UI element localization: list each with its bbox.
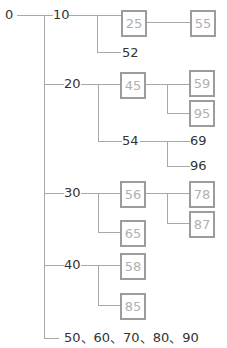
node-65: 65 bbox=[120, 220, 146, 247]
branch-10-line bbox=[69, 15, 121, 16]
branch-20-line bbox=[81, 84, 120, 85]
link-30-65 bbox=[98, 232, 120, 233]
link-56-87 bbox=[167, 223, 189, 224]
node-10: 10 bbox=[53, 8, 70, 22]
branch-30-line bbox=[81, 193, 120, 194]
node-95: 95 bbox=[189, 100, 215, 127]
node-56: 56 bbox=[120, 181, 146, 208]
split-45 bbox=[167, 84, 168, 114]
branch-30-connector bbox=[44, 193, 64, 194]
branch-10-connector bbox=[44, 15, 53, 16]
branch-10-split bbox=[97, 15, 98, 53]
node-25: 25 bbox=[121, 10, 147, 37]
node-54: 54 bbox=[122, 134, 139, 148]
branch-rest-connector bbox=[44, 338, 59, 339]
root-connector bbox=[17, 15, 45, 16]
branch-20-split bbox=[98, 84, 99, 142]
split-54 bbox=[167, 141, 168, 167]
link-54-96 bbox=[167, 166, 190, 167]
node-96: 96 bbox=[190, 159, 207, 173]
branch-30-split bbox=[98, 193, 99, 233]
node-78: 78 bbox=[189, 181, 215, 208]
node-87: 87 bbox=[189, 211, 215, 238]
root-node: 0 bbox=[5, 8, 13, 22]
node-52: 52 bbox=[122, 46, 139, 60]
split-56 bbox=[167, 193, 168, 224]
main-trunk-line bbox=[44, 15, 45, 339]
node-85: 85 bbox=[120, 293, 146, 320]
node-59: 59 bbox=[189, 70, 215, 97]
link-20-54 bbox=[98, 141, 122, 142]
branch-40-split bbox=[98, 265, 99, 306]
link-45-95 bbox=[167, 113, 189, 114]
branch-40-connector bbox=[44, 265, 64, 266]
link-10-52 bbox=[97, 52, 121, 53]
node-69: 69 bbox=[190, 134, 207, 148]
branch-40-line bbox=[81, 265, 120, 266]
node-20: 20 bbox=[64, 77, 81, 91]
link-25-55 bbox=[147, 22, 190, 23]
link-54-69 bbox=[140, 141, 190, 142]
node-30: 30 bbox=[64, 186, 81, 200]
node-remaining-list: 50、60、70、80、90 bbox=[64, 331, 199, 345]
branch-20-connector bbox=[44, 84, 64, 85]
node-58: 58 bbox=[120, 253, 146, 280]
node-45: 45 bbox=[120, 72, 146, 99]
node-55: 55 bbox=[190, 10, 216, 37]
link-40-85 bbox=[98, 305, 120, 306]
node-40: 40 bbox=[64, 258, 81, 272]
